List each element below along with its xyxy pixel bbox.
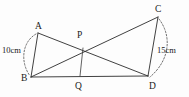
vertex-label-B: B — [21, 73, 27, 83]
arc-group — [24, 19, 167, 77]
vertex-label-Q: Q — [75, 81, 82, 91]
geometry-figure: A B C D P Q 10cm 15cm — [0, 0, 189, 97]
vertex-label-group: A B C D P Q — [21, 4, 161, 91]
segment-group — [31, 17, 158, 77]
vertex-label-A: A — [35, 21, 42, 31]
vertex-label-P: P — [77, 30, 82, 40]
segment-PQ — [80, 48, 83, 76]
vertex-label-C: C — [155, 4, 161, 14]
segment-BD — [31, 76, 148, 77]
segment-AD — [38, 33, 148, 76]
diagram-canvas: A B C D P Q 10cm 15cm — [0, 0, 189, 97]
segment-AB — [31, 33, 38, 77]
segment-BC — [31, 17, 158, 77]
vertex-label-D: D — [149, 81, 156, 91]
measure-label-right: 15cm — [157, 45, 176, 55]
measure-label-left: 10cm — [2, 45, 21, 55]
